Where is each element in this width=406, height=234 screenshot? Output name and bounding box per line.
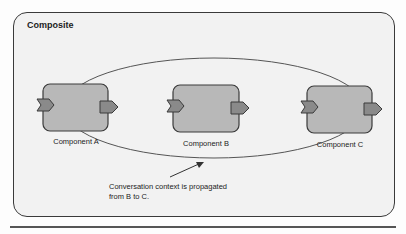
bottom-divider bbox=[10, 226, 396, 228]
note-line-2: from B to C. bbox=[109, 192, 227, 202]
reference-arrow-icon bbox=[231, 102, 249, 114]
conversation-note: Conversation context is propagated from … bbox=[109, 182, 227, 202]
component-c bbox=[301, 86, 382, 133]
reference-arrow-icon bbox=[100, 101, 118, 113]
callout-arrow bbox=[170, 162, 204, 177]
note-line-1: Conversation context is propagated bbox=[109, 182, 227, 192]
component-a bbox=[37, 84, 118, 131]
component-a-label: Component A bbox=[36, 137, 116, 146]
component-b-label: Component B bbox=[166, 139, 246, 148]
component-c-label: Component C bbox=[300, 140, 380, 149]
reference-arrow-icon bbox=[364, 103, 382, 115]
component-b bbox=[167, 85, 249, 132]
